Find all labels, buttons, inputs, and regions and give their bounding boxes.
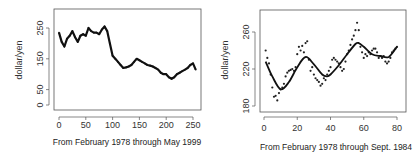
data-point xyxy=(314,77,316,79)
data-point xyxy=(333,57,335,59)
data-point xyxy=(276,99,278,101)
smoothed-curve xyxy=(266,43,397,90)
x-tick-label: 0 xyxy=(261,123,266,133)
data-point xyxy=(343,68,345,70)
data-point xyxy=(353,35,355,37)
data-point xyxy=(298,46,300,48)
x-tick-label: 60 xyxy=(359,123,369,133)
right-chart-panel: 180220260 020406080 dollar/yen From Febr… xyxy=(220,10,412,152)
data-point xyxy=(374,48,376,50)
data-point xyxy=(323,77,325,79)
left-y-axis: 050150250 xyxy=(35,20,49,107)
data-point xyxy=(336,61,338,63)
right-y-axis-label: dollar/yen xyxy=(220,40,230,79)
data-point xyxy=(318,81,320,83)
data-point xyxy=(316,79,318,81)
x-tick-label: 100 xyxy=(105,120,120,130)
data-point xyxy=(313,73,315,75)
data-point xyxy=(334,59,336,61)
data-line xyxy=(59,27,196,79)
data-point xyxy=(271,86,273,88)
data-point xyxy=(366,55,368,57)
x-tick-label: 40 xyxy=(325,123,335,133)
data-point xyxy=(339,66,341,68)
y-tick-label: 250 xyxy=(35,20,45,35)
data-point xyxy=(306,40,308,42)
left-y-axis-label: dollar/yen xyxy=(14,40,24,79)
right-data-series xyxy=(265,22,399,102)
chart-canvas: 050150250 050100150200250 dollar/yen Fro… xyxy=(0,0,420,166)
x-tick-label: 20 xyxy=(292,123,302,133)
right-y-axis: 180220260 xyxy=(241,24,255,113)
data-point xyxy=(291,68,293,70)
data-point xyxy=(319,85,321,87)
left-chart-panel: 050150250 050100150200250 dollar/yen Fro… xyxy=(14,9,201,147)
data-point xyxy=(309,70,311,72)
y-tick-label: 180 xyxy=(241,98,251,113)
data-point xyxy=(311,66,313,68)
data-point xyxy=(329,66,331,68)
data-point xyxy=(285,75,287,77)
left-x-axis-caption: From February 1978 through May 1999 xyxy=(53,137,202,147)
data-point xyxy=(303,51,305,53)
data-point xyxy=(378,57,380,59)
right-x-axis-caption: From February 1978 through Sept. 1984 xyxy=(260,142,412,152)
data-point xyxy=(268,62,270,64)
data-point xyxy=(351,38,353,40)
data-point xyxy=(358,29,360,31)
y-tick-label: 220 xyxy=(241,61,251,76)
y-tick-label: 0 xyxy=(35,102,45,107)
data-point xyxy=(265,49,267,51)
data-point xyxy=(371,49,373,51)
data-point xyxy=(359,46,361,48)
data-point xyxy=(299,49,301,51)
data-point xyxy=(354,29,356,31)
x-tick-label: 200 xyxy=(159,120,174,130)
data-point xyxy=(384,61,386,63)
left-data-series xyxy=(58,26,196,80)
data-point xyxy=(266,57,268,59)
left-x-axis: 050100150200250 xyxy=(56,117,200,130)
data-point xyxy=(324,79,326,81)
data-point xyxy=(278,92,280,94)
data-point xyxy=(361,51,363,53)
data-point xyxy=(356,22,358,24)
data-point xyxy=(286,72,288,74)
data-point xyxy=(283,83,285,85)
y-tick-label: 50 xyxy=(35,85,45,95)
x-tick-label: 250 xyxy=(185,120,200,130)
data-point xyxy=(328,70,330,72)
data-point xyxy=(388,61,390,63)
data-point xyxy=(301,45,303,47)
data-point xyxy=(344,61,346,63)
data-point xyxy=(363,57,365,59)
data-point xyxy=(386,62,388,64)
data-point xyxy=(331,59,333,61)
y-tick-label: 150 xyxy=(35,51,45,66)
y-tick-label: 260 xyxy=(241,24,251,39)
data-point xyxy=(296,53,298,55)
data-point xyxy=(349,44,351,46)
x-tick-label: 150 xyxy=(132,120,147,130)
x-tick-label: 80 xyxy=(392,123,402,133)
data-point xyxy=(341,70,343,72)
x-tick-label: 50 xyxy=(81,120,91,130)
data-point xyxy=(321,83,323,85)
data-point xyxy=(376,51,378,53)
x-tick-label: 0 xyxy=(56,120,61,130)
left-plot-frame xyxy=(54,9,201,110)
right-plot-frame xyxy=(260,10,406,112)
data-point xyxy=(326,73,328,75)
data-point xyxy=(364,53,366,55)
right-x-axis: 020406080 xyxy=(261,117,402,133)
data-point xyxy=(304,42,306,44)
data-point xyxy=(275,95,277,97)
